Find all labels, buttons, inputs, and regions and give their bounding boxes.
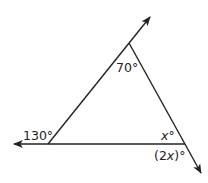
right-interior-angle-label: x° <box>160 128 175 143</box>
left-exterior-angle-label: 130° <box>23 128 53 143</box>
upper-ray-line <box>48 17 150 144</box>
degree-symbol: ° <box>168 128 174 143</box>
paren-open-two: (2 <box>154 148 167 163</box>
right-exterior-angle-label: (2x)° <box>154 148 185 163</box>
triangle-diagram: 70° 130° x° (2x)° <box>0 0 208 183</box>
paren-close-degree: )° <box>174 148 185 163</box>
top-angle-label: 70° <box>116 60 138 75</box>
